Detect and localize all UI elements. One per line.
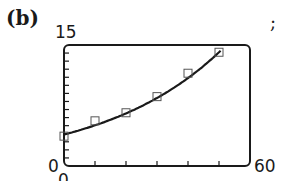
chart-plot-area (0, 0, 286, 181)
fitted-curve (64, 51, 221, 135)
plot-frame (64, 45, 250, 166)
